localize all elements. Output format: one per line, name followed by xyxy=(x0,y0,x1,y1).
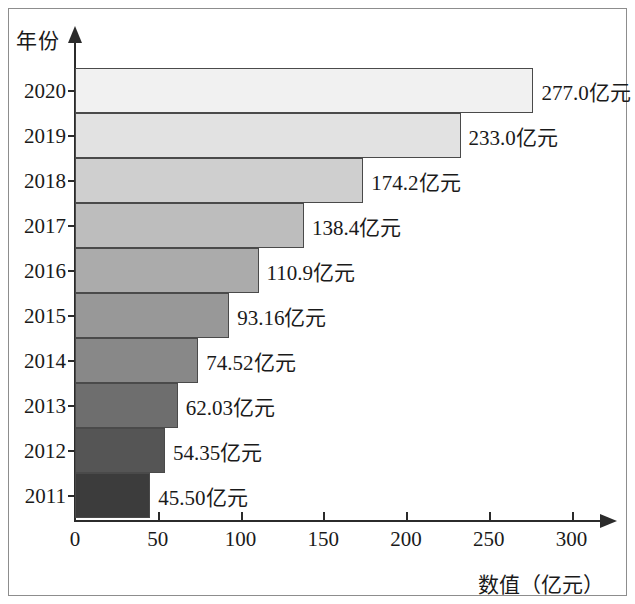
bar-2017[interactable] xyxy=(75,203,304,248)
y-tick-label-2014: 2014 xyxy=(8,348,66,373)
bar-row: 2019233.0亿元 xyxy=(0,113,635,158)
bar-value-label-2013: 62.03亿元 xyxy=(186,391,275,421)
x-tick-label-200: 200 xyxy=(376,527,436,552)
bar-row: 201254.35亿元 xyxy=(0,428,635,473)
bar-value-label-2016: 110.9亿元 xyxy=(267,256,355,286)
y-tick-label-2015: 2015 xyxy=(8,303,66,328)
bar-value-label-2017: 138.4亿元 xyxy=(312,211,401,241)
y-tick-label-2011: 2011 xyxy=(8,483,66,508)
x-tick-label-50: 50 xyxy=(128,527,188,552)
bar-value-label-2019: 233.0亿元 xyxy=(469,121,558,151)
bar-value-label-2011: 45.50亿元 xyxy=(158,481,247,511)
bar-row: 201145.50亿元 xyxy=(0,473,635,518)
bar-value-label-2018: 174.2亿元 xyxy=(371,166,460,196)
bar-row: 2020277.0亿元 xyxy=(0,68,635,113)
bar-row: 2018174.2亿元 xyxy=(0,158,635,203)
bar-2014[interactable] xyxy=(75,338,198,383)
x-tick-mark xyxy=(241,512,243,521)
bar-value-label-2020: 277.0亿元 xyxy=(541,76,630,106)
bar-row: 201474.52亿元 xyxy=(0,338,635,383)
bar-2015[interactable] xyxy=(75,293,229,338)
x-tick-label-250: 250 xyxy=(459,527,519,552)
bar-2013[interactable] xyxy=(75,383,178,428)
x-tick-mark xyxy=(489,512,491,521)
y-tick-label-2013: 2013 xyxy=(8,393,66,418)
bar-2018[interactable] xyxy=(75,158,363,203)
x-tick-mark xyxy=(158,512,160,521)
bar-value-label-2015: 93.16亿元 xyxy=(237,301,326,331)
y-tick-label-2020: 2020 xyxy=(8,78,66,103)
bar-2016[interactable] xyxy=(75,248,259,293)
x-tick-mark xyxy=(406,512,408,521)
bar-2012[interactable] xyxy=(75,428,165,473)
x-tick-mark xyxy=(323,512,325,521)
bar-2011[interactable] xyxy=(75,473,150,518)
x-tick-label-100: 100 xyxy=(211,527,271,552)
y-tick-label-2016: 2016 xyxy=(8,258,66,283)
bar-value-label-2014: 74.52亿元 xyxy=(206,346,295,376)
x-tick-label-300: 300 xyxy=(542,527,602,552)
bar-row: 201362.03亿元 xyxy=(0,383,635,428)
y-tick-label-2012: 2012 xyxy=(8,438,66,463)
y-tick-label-2017: 2017 xyxy=(8,213,66,238)
bar-value-label-2012: 54.35亿元 xyxy=(173,436,262,466)
y-tick-label-2019: 2019 xyxy=(8,123,66,148)
x-tick-mark xyxy=(572,512,574,521)
y-tick-label-2018: 2018 xyxy=(8,168,66,193)
bar-row: 2016110.9亿元 xyxy=(0,248,635,293)
x-tick-label-150: 150 xyxy=(293,527,353,552)
x-tick-label-0: 0 xyxy=(45,527,105,552)
bar-row: 2017138.4亿元 xyxy=(0,203,635,248)
bar-2019[interactable] xyxy=(75,113,461,158)
plot-area: 2020277.0亿元2019233.0亿元2018174.2亿元2017138… xyxy=(0,0,635,604)
bar-row: 201593.16亿元 xyxy=(0,293,635,338)
bar-chart-figure: 年份 数值（亿元） 2020277.0亿元2019233.0亿元2018174.… xyxy=(0,0,635,604)
bar-2020[interactable] xyxy=(75,68,533,113)
